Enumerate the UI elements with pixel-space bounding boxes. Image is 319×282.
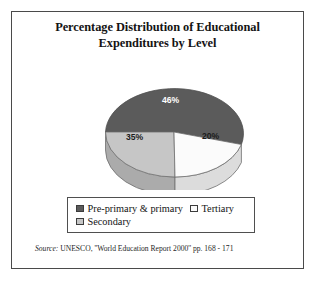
- chart-legend: Pre-primary & primary Tertiary Secondary: [67, 197, 255, 233]
- legend-item-secondary[interactable]: Secondary: [76, 216, 131, 228]
- legend-label-pre-primary-and-primary: Pre-primary & primary: [88, 203, 184, 215]
- legend-item-pre-primary-and-primary[interactable]: Pre-primary & primary: [76, 203, 183, 215]
- legend-row-2: Secondary: [76, 215, 247, 228]
- legend-swatch-secondary: [76, 218, 84, 226]
- page-title: Percentage Distribution of Educational E…: [12, 20, 303, 51]
- title-line-1: Percentage Distribution of Educational: [12, 20, 303, 36]
- legend-label-tertiary: Tertiary: [202, 203, 234, 215]
- pie-data-label-tertiary: 20%: [202, 131, 219, 141]
- legend-swatch-tertiary: [190, 205, 198, 213]
- pie-chart: 46% 20% 35%: [93, 65, 253, 190]
- legend-label-secondary: Secondary: [88, 216, 131, 228]
- pie-data-label-secondary: 35%: [126, 132, 143, 142]
- source-label: Source:: [35, 244, 58, 253]
- legend-item-tertiary[interactable]: Tertiary: [190, 203, 234, 215]
- legend-swatch-pre-primary-and-primary: [76, 205, 84, 213]
- source-note: Source: UNESCO, ''World Education Report…: [35, 244, 297, 254]
- figure-frame: Percentage Distribution of Educational E…: [11, 11, 304, 269]
- source-text: UNESCO, ''World Education Report 2000'' …: [60, 244, 233, 253]
- pie-data-label-pre-primary-and-primary: 46%: [162, 95, 179, 105]
- title-line-2: Expenditures by Level: [12, 36, 303, 52]
- legend-row-1: Pre-primary & primary Tertiary: [76, 202, 247, 215]
